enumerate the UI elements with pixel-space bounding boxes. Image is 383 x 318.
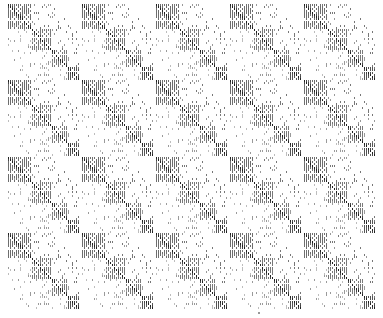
matrix-canvas [0, 0, 383, 318]
tiled-matrix-grid [0, 0, 383, 318]
